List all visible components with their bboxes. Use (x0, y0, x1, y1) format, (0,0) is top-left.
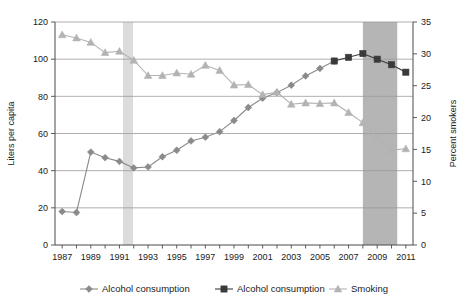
data-point-marker (87, 149, 94, 156)
x-tick-label-1999: 1999 (224, 252, 244, 262)
x-tick-label-1997: 1997 (195, 252, 215, 262)
y-tick-label-right-0: 0 (421, 240, 426, 250)
legend-item-0[interactable]: Alcohol consumption (80, 283, 190, 294)
x-tick-label-2007: 2007 (339, 252, 359, 262)
y-tick-label-right-20: 20 (421, 113, 431, 123)
data-point-marker (374, 56, 380, 62)
y-tick-label-left-80: 80 (38, 92, 48, 102)
chart-container: 0204060801001200510152025303519871989199… (0, 0, 468, 306)
x-tick-label-1987: 1987 (52, 252, 72, 262)
data-point-marker (145, 164, 152, 171)
y-axis-right-title: Percent smokers (448, 99, 458, 167)
data-point-marker (173, 69, 181, 76)
x-tick-label-2003: 2003 (281, 252, 301, 262)
data-point-marker (102, 154, 109, 161)
data-point-marker (86, 286, 93, 293)
y-tick-label-left-60: 60 (38, 129, 48, 139)
y-tick-label-right-30: 30 (421, 49, 431, 59)
y-tick-label-right-5: 5 (421, 208, 426, 218)
y-tick-label-right-25: 25 (421, 81, 431, 91)
legend-label-2: Smoking (351, 283, 388, 294)
grid-lines (55, 22, 413, 208)
x-tick-label-1995: 1995 (167, 252, 187, 262)
x-tick-label-2011: 2011 (396, 252, 415, 262)
x-tick-label-1989: 1989 (81, 252, 101, 262)
series-alcohol-diamond (59, 58, 338, 216)
legend-item-1[interactable]: Alcohol consumption (215, 283, 325, 294)
y-tick-label-right-35: 35 (421, 17, 431, 27)
chart-legend: Alcohol consumptionAlcohol consumptionSm… (80, 283, 388, 294)
legend-label-0: Alcohol consumption (102, 283, 190, 294)
x-tick-label-2001: 2001 (253, 252, 273, 262)
data-point-marker (116, 158, 123, 165)
data-point-marker (159, 153, 166, 160)
y-tick-label-left-100: 100 (33, 54, 48, 64)
y-tick-label-left-20: 20 (38, 203, 48, 213)
data-point-marker (188, 138, 195, 145)
data-point-marker (173, 147, 180, 154)
data-point-marker (345, 109, 353, 116)
data-point-marker (302, 72, 309, 79)
data-point-marker (202, 134, 209, 141)
data-point-marker (403, 69, 409, 75)
data-point-marker (73, 209, 80, 216)
data-point-marker (331, 58, 337, 64)
data-point-marker (221, 286, 227, 292)
series-smoking (58, 31, 409, 153)
x-tick-label-2005: 2005 (310, 252, 330, 262)
y-axis-left-title: Liters per capita (6, 101, 16, 165)
data-point-marker (317, 65, 324, 72)
data-point-marker (288, 82, 295, 89)
y-tick-label-left-0: 0 (43, 240, 48, 250)
data-point-marker (402, 145, 410, 152)
data-point-marker (116, 48, 124, 55)
data-point-marker (345, 54, 351, 60)
y-tick-label-right-15: 15 (421, 145, 431, 155)
data-point-marker (388, 62, 394, 68)
x-tick-label-1991: 1991 (109, 252, 129, 262)
data-point-marker (360, 50, 366, 56)
y-tick-label-right-10: 10 (421, 177, 431, 187)
x-tick-label-2009: 2009 (367, 252, 387, 262)
data-point-marker (202, 62, 210, 69)
data-point-marker (59, 208, 66, 215)
y-tick-label-left-120: 120 (33, 17, 48, 27)
series-line-smoking (62, 35, 406, 150)
x-tick-label-1993: 1993 (138, 252, 158, 262)
legend-label-1: Alcohol consumption (237, 283, 325, 294)
legend-item-2[interactable]: Smoking (329, 283, 388, 294)
plot-series (58, 31, 409, 216)
dual-axis-line-chart: 0204060801001200510152025303519871989199… (0, 0, 468, 306)
y-tick-label-left-40: 40 (38, 166, 48, 176)
data-point-marker (58, 31, 66, 38)
